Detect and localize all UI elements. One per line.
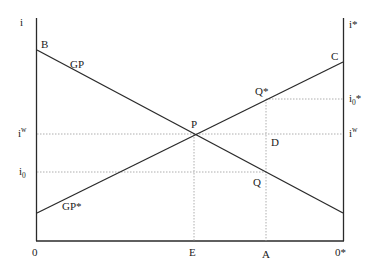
point-c-label: C xyxy=(331,50,338,62)
gp-star-curve-label: GP* xyxy=(62,200,82,212)
point-d-label: D xyxy=(271,136,279,148)
i0-left-label: i0 xyxy=(19,165,26,180)
point-p-label: P xyxy=(191,118,197,130)
left-axis-label: i xyxy=(20,16,23,28)
gp-curve-label: GP xyxy=(70,58,84,70)
iw-right-label: iw xyxy=(349,125,358,139)
point-b-label: B xyxy=(41,38,48,50)
point-q-star-label: Q* xyxy=(255,85,268,97)
point-q-label: Q xyxy=(253,176,261,188)
right-axis-label: i* xyxy=(349,18,358,30)
iw-left-label: iw xyxy=(18,125,27,139)
origin-right-label: 0* xyxy=(335,246,346,258)
point-a-label: A xyxy=(262,248,270,260)
i0-star-right-label: i0* xyxy=(349,92,361,107)
diagram-canvas: i i* 0 0* B C P Q Q* D E A GP GP* iw i0 … xyxy=(0,0,376,273)
gp-star-line xyxy=(37,62,343,213)
gp-line xyxy=(37,50,343,213)
point-e-label: E xyxy=(189,246,196,258)
origin-left-label: 0 xyxy=(32,246,38,258)
